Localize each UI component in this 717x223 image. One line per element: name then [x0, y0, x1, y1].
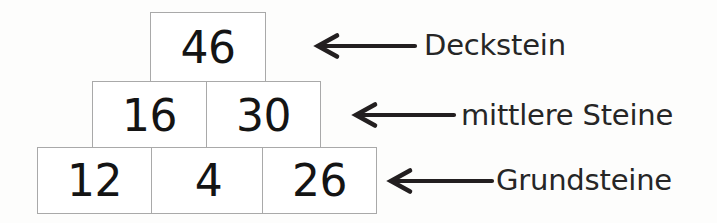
left-arrow-icon-middle-stones [353, 104, 454, 126]
pyramid-cell-base-1: 12 [37, 147, 152, 214]
pyramid-cell-middle-1: 16 [92, 81, 207, 149]
left-arrow-icon-base-stones [388, 170, 492, 192]
pyramid-cell-middle-2: 30 [206, 81, 321, 149]
left-arrow-icon-top-stone [315, 35, 415, 57]
pyramid-cell-top-1: 46 [150, 12, 266, 82]
number-pyramid-diagram: 46 16 30 12 4 26 Deckstein mittlere Stei… [0, 0, 717, 223]
annotation-label-mittlere-steine: mittlere Steine [461, 98, 673, 132]
annotation-label-deckstein: Deckstein [424, 28, 566, 62]
pyramid-cell-base-2: 4 [151, 147, 266, 214]
pyramid-cell-base-3: 26 [262, 147, 377, 214]
annotation-label-grundsteine: Grundsteine [496, 163, 672, 197]
